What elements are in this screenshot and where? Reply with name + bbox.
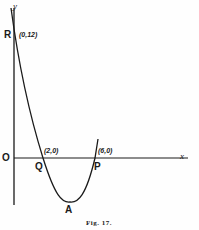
point-p-coord: (6,0): [98, 147, 112, 154]
vertex-a-label: A: [65, 205, 72, 215]
point-q-label: Q: [35, 162, 43, 172]
figure-caption: Fig. 17.: [86, 220, 112, 227]
x-axis-label: x: [180, 152, 184, 161]
figure-17: y x O R (0,12) Q (2,0) P (6,0) A Fig. 17…: [0, 0, 199, 230]
point-r-coord: (0,12): [19, 31, 37, 38]
y-axis-label: y: [13, 2, 17, 11]
point-p-label: P: [94, 162, 101, 172]
point-r-label: R: [4, 30, 11, 40]
origin-label: O: [2, 153, 10, 163]
point-q-coord: (2,0): [44, 147, 58, 154]
